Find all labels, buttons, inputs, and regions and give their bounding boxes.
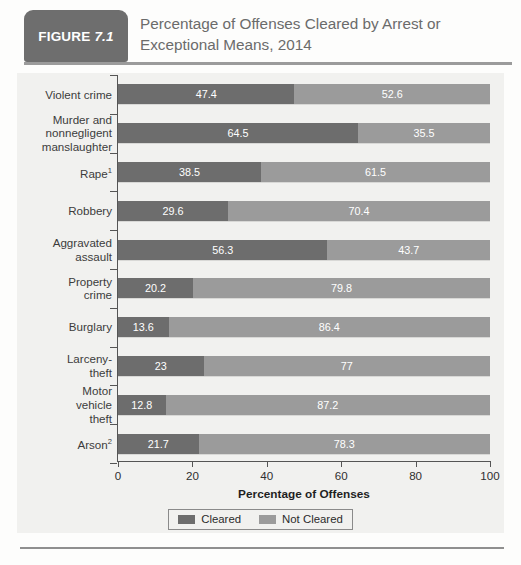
bar-segment-cleared: 20.2 <box>118 278 193 298</box>
category-label: Burglary <box>2 320 112 334</box>
bar-segment-cleared: 38.5 <box>118 162 261 182</box>
table-row: Propertycrime20.279.8 <box>17 269 504 308</box>
category-label: Murder andnonnegligentmanslaughter <box>2 113 112 154</box>
y-axis-tick <box>110 230 117 231</box>
table-row: Burglary13.686.4 <box>17 308 504 347</box>
x-axis-title: Percentage of Offenses <box>117 487 491 501</box>
bar-segment-cleared: 21.7 <box>118 434 199 454</box>
legend-box: ClearedNot Cleared <box>168 509 353 530</box>
figure-badge-label: FIGURE <box>38 29 90 44</box>
table-row: Larceny-theft2377 <box>17 347 504 386</box>
figure-badge-number: 7.1 <box>94 29 113 44</box>
table-row: Arson221.778.3 <box>17 424 504 463</box>
y-axis-tick <box>110 269 117 270</box>
bottom-divider <box>20 547 504 549</box>
x-axis-tick-label: 0 <box>98 469 138 482</box>
bar-segment-not-cleared: 87.2 <box>166 395 490 415</box>
x-axis-tick-label: 20 <box>172 469 212 482</box>
table-row: Rape138.561.5 <box>17 153 504 192</box>
x-axis-tick-label: 40 <box>247 469 287 482</box>
bar-segment-not-cleared: 70.4 <box>228 201 490 221</box>
bar-segment-cleared: 29.6 <box>118 201 228 221</box>
stacked-bar: 47.452.6 <box>118 84 490 104</box>
category-label: Rape1 <box>2 164 112 180</box>
category-label: Robbery <box>2 204 112 218</box>
stacked-bar: 56.343.7 <box>118 240 490 260</box>
bar-segment-cleared: 47.4 <box>118 84 294 104</box>
stacked-bar: 29.670.4 <box>118 201 490 221</box>
y-axis-tick <box>110 75 117 76</box>
y-axis-tick <box>110 463 117 464</box>
table-row: Robbery29.670.4 <box>17 191 504 230</box>
stacked-bar: 21.778.3 <box>118 434 490 454</box>
bar-segment-cleared: 13.6 <box>118 317 169 337</box>
bar-segment-cleared: 64.5 <box>118 123 358 143</box>
category-label: Violent crime <box>2 88 112 102</box>
y-axis-tick <box>110 424 117 425</box>
category-label: Motorvehicletheft <box>2 384 112 425</box>
bar-segment-not-cleared: 52.6 <box>294 84 490 104</box>
bar-segment-not-cleared: 79.8 <box>193 278 490 298</box>
figure-number-text: FIGURE 7.1 <box>38 29 114 44</box>
y-axis-tick <box>110 347 117 348</box>
y-axis-tick <box>110 114 117 115</box>
bar-segment-not-cleared: 35.5 <box>358 123 490 143</box>
category-label: Aggravatedassault <box>2 236 112 263</box>
x-axis-tick <box>416 461 417 467</box>
x-axis-tick-label: 100 <box>470 469 510 482</box>
bar-segment-not-cleared: 77 <box>204 356 490 376</box>
y-axis-tick <box>110 191 117 192</box>
table-row: Murder andnonnegligentmanslaughter64.535… <box>17 114 504 153</box>
legend-item[interactable]: Not Cleared <box>259 513 343 525</box>
y-axis-line <box>117 75 118 461</box>
x-axis-tick <box>118 461 119 467</box>
chart-legend: ClearedNot Cleared <box>17 509 504 530</box>
figure-page: FIGURE 7.1 Percentage of Offenses Cleare… <box>0 0 521 565</box>
stacked-bar: 38.561.5 <box>118 162 490 182</box>
plot-area: Violent crime47.452.6Murder andnonneglig… <box>17 73 504 461</box>
bar-segment-cleared: 56.3 <box>118 240 327 260</box>
category-label: Arson2 <box>2 435 112 451</box>
bar-segment-not-cleared: 43.7 <box>327 240 490 260</box>
y-axis-tick <box>110 385 117 386</box>
legend-label: Not Cleared <box>282 513 343 525</box>
legend-label: Cleared <box>201 513 241 525</box>
x-axis-tick <box>267 461 268 467</box>
x-axis-tick <box>192 461 193 467</box>
chart-panel: Violent crime47.452.6Murder andnonneglig… <box>17 73 504 533</box>
stacked-bar: 12.887.2 <box>118 395 490 415</box>
y-axis-tick <box>110 153 117 154</box>
figure-header: FIGURE 7.1 Percentage of Offenses Cleare… <box>0 0 521 72</box>
figure-number-badge: FIGURE 7.1 <box>24 10 128 62</box>
bar-segment-not-cleared: 78.3 <box>199 434 490 454</box>
x-axis-tick-label: 80 <box>396 469 436 482</box>
stacked-bar: 13.686.4 <box>118 317 490 337</box>
bar-segment-cleared: 12.8 <box>118 395 166 415</box>
x-axis-line <box>117 461 491 462</box>
table-row: Aggravatedassault56.343.7 <box>17 230 504 269</box>
table-row: Violent crime47.452.6 <box>17 75 504 114</box>
x-axis-tick <box>490 461 491 467</box>
legend-swatch <box>259 515 276 524</box>
stacked-bar: 64.535.5 <box>118 123 490 143</box>
stacked-bar: 20.279.8 <box>118 278 490 298</box>
category-label: Propertycrime <box>2 275 112 302</box>
legend-swatch <box>178 515 195 524</box>
table-row: Motorvehicletheft12.887.2 <box>17 385 504 424</box>
header-divider <box>24 62 512 65</box>
legend-item[interactable]: Cleared <box>178 513 241 525</box>
category-label: Larceny-theft <box>2 352 112 379</box>
stacked-bar: 2377 <box>118 356 490 376</box>
figure-title: Percentage of Offenses Cleared by Arrest… <box>140 13 510 55</box>
x-axis-tick <box>341 461 342 467</box>
x-axis-tick-label: 60 <box>321 469 361 482</box>
bar-segment-not-cleared: 61.5 <box>261 162 490 182</box>
y-axis-tick <box>110 308 117 309</box>
bar-segment-cleared: 23 <box>118 356 204 376</box>
bar-segment-not-cleared: 86.4 <box>169 317 490 337</box>
